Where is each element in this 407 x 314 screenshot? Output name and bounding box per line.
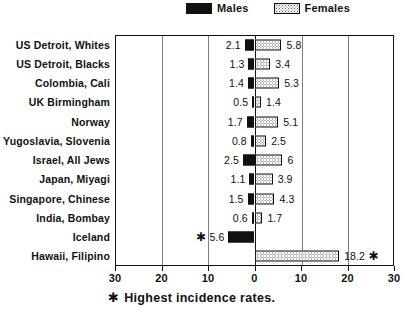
- female-value-label: 3.4: [275, 59, 290, 70]
- axis-tick: [394, 266, 395, 271]
- female-value-text: 4.3: [279, 192, 294, 204]
- female-bar: [255, 174, 273, 185]
- female-value-label: 5.8: [286, 39, 301, 50]
- female-value-label: 1.4: [266, 97, 281, 108]
- male-bar: [248, 78, 255, 89]
- female-bar: [255, 116, 279, 127]
- chart-row: Israel, All Jews2.56: [0, 151, 407, 170]
- female-bar: [255, 58, 271, 69]
- axis-tick-label: 30: [109, 273, 122, 284]
- chart-footnote: ✱Highest incidence rates.: [108, 291, 398, 305]
- female-bar: [255, 135, 267, 146]
- chart-rows: US Detroit, Whites2.15.8US Detroit, Blac…: [0, 35, 407, 266]
- chart-row: Hawaii, Filipino18.2 ✱: [0, 247, 407, 266]
- female-value-text: 5.1: [283, 115, 298, 127]
- female-value-label: 18.2 ✱: [344, 250, 378, 262]
- male-value-text: 1.4: [229, 77, 244, 89]
- male-value-label: 1.1: [230, 174, 245, 185]
- chart-legend: Males Females: [0, 0, 407, 24]
- male-bar: [245, 39, 255, 50]
- male-value-label: 2.1: [226, 39, 241, 50]
- male-value-label: 0.6: [233, 213, 248, 224]
- chart-row: Japan, Miyagi1.13.9: [0, 170, 407, 189]
- male-bar: [243, 155, 255, 166]
- female-value-text: 2.5: [271, 135, 286, 147]
- male-value-label: 1.5: [229, 193, 244, 204]
- chart-row: US Detroit, Whites2.15.8: [0, 35, 407, 54]
- axis-tick-label: 30: [388, 273, 401, 284]
- male-value-label: 0.8: [232, 136, 247, 147]
- males-swatch-icon: [186, 3, 212, 14]
- male-value-text: 1.5: [229, 192, 244, 204]
- male-value-text: 1.3: [230, 58, 245, 70]
- axis-tick: [115, 266, 116, 271]
- male-value-text: 2.1: [226, 38, 241, 50]
- male-value-label: ✱ 5.6: [196, 231, 225, 243]
- female-value-text: 1.4: [266, 96, 281, 108]
- female-value-label: 1.7: [267, 213, 282, 224]
- female-bar: [255, 193, 275, 204]
- footnote-star-icon: ✱: [108, 290, 119, 305]
- male-bar: [248, 193, 255, 204]
- footnote-text: Highest incidence rates.: [124, 291, 275, 305]
- male-bar: [228, 232, 254, 243]
- female-bar: [255, 78, 280, 89]
- female-bar: [255, 155, 283, 166]
- female-value-text: 1.7: [267, 212, 282, 224]
- axis-tick: [301, 266, 302, 271]
- chart-row: Colombia, Cali1.45.3: [0, 74, 407, 93]
- female-value-label: 3.9: [278, 174, 293, 185]
- chart-row: US Detroit, Blacks1.33.4: [0, 54, 407, 73]
- row-label-japan-miyagi: Japan, Miyagi: [39, 174, 110, 185]
- female-value-text: 3.9: [278, 173, 293, 185]
- male-value-label: 2.5: [224, 155, 239, 166]
- axis-tick-label: 20: [155, 273, 168, 284]
- row-label-uk-birmingham: UK Birmingham: [29, 97, 110, 108]
- row-label-norway: Norway: [71, 116, 110, 127]
- axis-tick-label: 20: [341, 273, 354, 284]
- axis-tick: [208, 266, 209, 271]
- axis-tick-label: 10: [295, 273, 308, 284]
- female-value-text: 5.8: [286, 38, 301, 50]
- female-value-text: 3.4: [275, 58, 290, 70]
- female-value-text: 5.3: [284, 77, 299, 89]
- chart-row: India, Bombay0.61.7: [0, 208, 407, 227]
- chart-row: UK Birmingham0.51.4: [0, 93, 407, 112]
- female-bar: [255, 212, 263, 223]
- male-value-text: 0.5: [233, 96, 248, 108]
- male-value-text: 5.6: [210, 231, 225, 243]
- female-bar: [255, 97, 262, 108]
- females-swatch-icon: [274, 3, 300, 14]
- male-value-label: 1.7: [228, 116, 243, 127]
- male-value-label: 1.4: [229, 78, 244, 89]
- chart-row: Norway1.75.1: [0, 112, 407, 131]
- male-value-text: 0.6: [233, 212, 248, 224]
- axis-tick-label: 10: [202, 273, 215, 284]
- female-value-label: 6: [287, 155, 293, 166]
- row-label-israel-all-jews: Israel, All Jews: [33, 155, 110, 166]
- row-label-us-detroit-whites: US Detroit, Whites: [16, 39, 110, 50]
- highest-rate-star-icon: ✱: [365, 249, 379, 263]
- male-value-label: 0.5: [233, 97, 248, 108]
- axis-tick: [255, 266, 256, 271]
- chart-row: Singapore, Chinese1.54.3: [0, 189, 407, 208]
- row-label-iceland: Iceland: [73, 232, 110, 243]
- row-label-hawaii-filipino: Hawaii, Filipino: [31, 251, 110, 262]
- female-value-text: 6: [287, 154, 293, 166]
- female-value-text: 18.2: [344, 250, 365, 262]
- female-value-label: 5.3: [284, 78, 299, 89]
- axis-tick: [162, 266, 163, 271]
- chart-row: Yugoslavia, Slovenia0.82.5: [0, 131, 407, 150]
- row-label-india-bombay: India, Bombay: [36, 213, 110, 224]
- axis-tick-label: 0: [251, 273, 257, 284]
- male-value-text: 1.1: [230, 173, 245, 185]
- male-value-label: 1.3: [230, 59, 245, 70]
- male-value-text: 2.5: [224, 154, 239, 166]
- male-bar: [247, 116, 255, 127]
- male-value-text: 0.8: [232, 135, 247, 147]
- female-value-label: 5.1: [283, 116, 298, 127]
- female-value-label: 2.5: [271, 136, 286, 147]
- axis-tick: [348, 266, 349, 271]
- legend-entry-females: Females: [274, 3, 350, 14]
- row-label-us-detroit-blacks: US Detroit, Blacks: [16, 59, 110, 70]
